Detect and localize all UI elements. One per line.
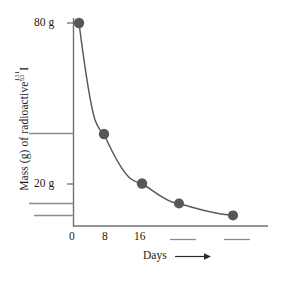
x-axis-title: Days — [143, 250, 167, 262]
chart-canvas — [0, 0, 297, 284]
data-point-2 — [99, 129, 109, 139]
y-tick-label-80: 80 g — [34, 17, 54, 29]
data-point-4 — [174, 199, 184, 209]
data-point-3 — [137, 178, 147, 188]
data-point-5 — [228, 210, 238, 220]
x-axis-arrow-head — [204, 253, 211, 259]
x-tick-label-8: 8 — [102, 231, 108, 243]
x-tick-label-16: 16 — [134, 231, 146, 243]
decay-curve — [79, 23, 233, 215]
y-tick-label-20: 20 g — [34, 178, 54, 190]
decay-curve-figure: Mass (g) of radioactive13153I 80 g 20 g … — [0, 0, 297, 284]
x-tick-label-0: 0 — [69, 231, 75, 243]
data-point-1 — [74, 18, 84, 28]
